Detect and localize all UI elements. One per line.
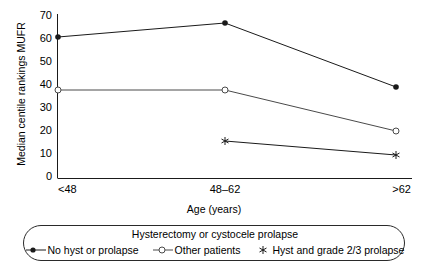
y-tick-label: 30 [40, 101, 52, 113]
x-tick-label: >62 [392, 183, 411, 195]
legend-item-label: Other patients [175, 244, 241, 256]
legend-entries: No hyst or prolapse Other patients Hyst … [24, 244, 406, 256]
y-tick-label: 50 [40, 55, 52, 67]
data-point-open-circle [393, 128, 399, 134]
data-point-filled-circle [55, 34, 61, 40]
data-point-open-circle [55, 87, 61, 93]
y-tick-label: 10 [40, 147, 52, 159]
legend-item-other-patients: Other patients [153, 244, 241, 256]
legend: Hysterectomy or cystocele prolapse No hy… [23, 225, 405, 261]
series-line [225, 141, 396, 155]
star-marker-icon [255, 244, 271, 256]
series-no-hyst-or-prolapse [55, 20, 399, 90]
plot-area: 70 60 50 40 30 20 10 0 <48 48–62 >62 [0, 0, 428, 200]
series-hyst-and-grade-2-3-prolapse [222, 137, 400, 159]
y-tick-label: 20 [40, 124, 52, 136]
legend-item-label: Hyst and grade 2/3 prolapse [273, 244, 405, 256]
x-tick-label: 48–62 [210, 183, 241, 195]
y-tick-label: 60 [40, 32, 52, 44]
legend-item-no-hyst-or-prolapse: No hyst or prolapse [26, 244, 139, 256]
series-line [58, 90, 396, 131]
data-point-filled-circle [393, 84, 399, 90]
data-point-filled-circle [222, 20, 228, 26]
chart-figure: Median centile rankings MUFR 70 60 50 40… [0, 0, 428, 267]
open-circle-marker-icon [153, 245, 173, 255]
x-axis-title: Age (years) [0, 203, 428, 215]
filled-circle-marker-icon [26, 245, 46, 255]
data-point-open-circle [222, 87, 228, 93]
y-tick-label: 40 [40, 78, 52, 90]
series-line [58, 23, 396, 87]
y-tick-label: 0 [46, 170, 52, 182]
legend-title: Hysterectomy or cystocele prolapse [24, 228, 406, 240]
x-tick-label: <48 [58, 183, 77, 195]
legend-item-label: No hyst or prolapse [48, 244, 139, 256]
series-other-patients [55, 87, 399, 134]
legend-item-hyst-and-grade-2-3-prolapse: Hyst and grade 2/3 prolapse [255, 244, 405, 256]
y-tick-label: 70 [40, 9, 52, 21]
